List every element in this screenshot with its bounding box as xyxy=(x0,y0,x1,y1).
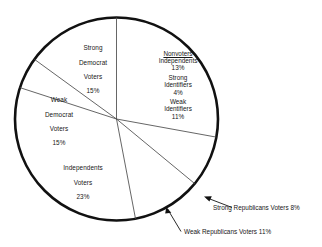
slice-label-weak-democrat: Weak Democrat Voters 15% xyxy=(29,89,89,154)
nonvoters-item-1-value: 4% xyxy=(140,89,216,96)
weak-democrat-line1: Weak xyxy=(29,96,89,103)
slice-label-independents-voters: Independents Voters 23% xyxy=(44,157,122,207)
independents-voters-line1: Independents xyxy=(44,164,122,171)
weak-democrat-line3: Voters xyxy=(29,125,89,132)
nonvoters-item-0-name1: Independents xyxy=(140,57,216,64)
nonvoters-group-title: Nonvoters xyxy=(140,50,216,57)
nonvoters-item-2-value: 11% xyxy=(140,113,216,120)
callout-label-weak-republicans: Weak Republicans Voters 11% xyxy=(184,228,271,235)
nonvoters-item-2-name2: Identifiers xyxy=(140,105,216,112)
strong-democrat-line2: Democrat xyxy=(62,59,124,66)
weak-democrat-value: 15% xyxy=(29,139,89,146)
slice-label-nonvoters-group: Nonvoters Independents 13% Strong Identi… xyxy=(140,50,216,120)
independents-voters-line2: Voters xyxy=(44,179,122,186)
strong-democrat-line3: Voters xyxy=(62,73,124,80)
nonvoters-item-1-name2: Identifiers xyxy=(140,81,216,88)
independents-voters-value: 23% xyxy=(44,193,122,200)
nonvoters-item-0-value: 13% xyxy=(140,64,216,71)
nonvoters-item-1-name1: Strong xyxy=(140,74,216,81)
strong-democrat-line1: Strong xyxy=(62,44,124,51)
callout-text-weak-republicans: Weak Republicans Voters 11% xyxy=(184,228,271,235)
callout-label-strong-republicans: Strong Republicans Voters 8% xyxy=(213,204,300,211)
nonvoters-item-2-name1: Weak xyxy=(140,98,216,105)
pie-chart-figure: Strong Democrat Voters 15% Weak Democrat… xyxy=(0,0,322,247)
callout-text-strong-republicans: Strong Republicans Voters 8% xyxy=(213,204,300,211)
weak-democrat-line2: Democrat xyxy=(29,111,89,118)
